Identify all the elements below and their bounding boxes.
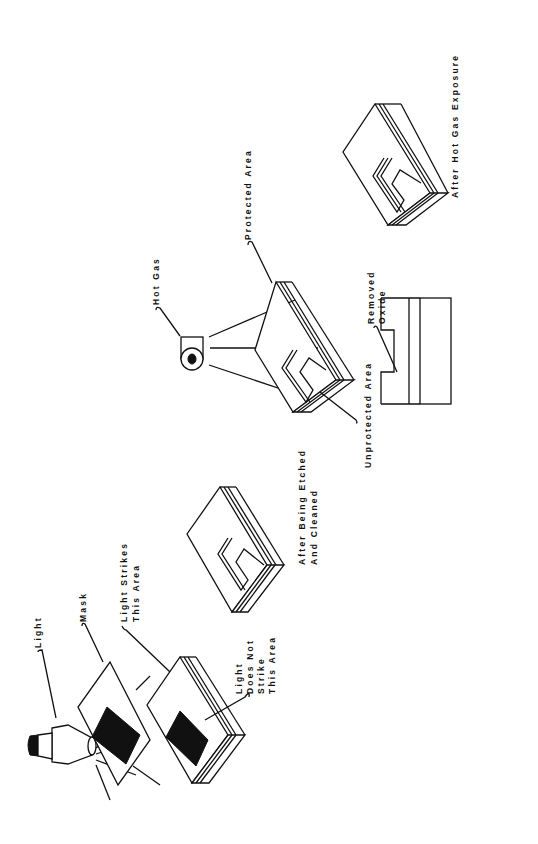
label-etched-2: And Cleaned <box>309 489 319 565</box>
wafer-exposed <box>147 657 245 783</box>
hot-gas-pointer <box>156 307 180 336</box>
label-removed-oxide-1: Removed <box>366 270 376 324</box>
label-light-not-4: This Area <box>267 636 277 694</box>
light-pointer <box>38 650 56 718</box>
light-bulb-icon <box>28 725 96 764</box>
hot-gas-nozzle-icon <box>181 337 203 370</box>
label-light-not-1: Light <box>234 662 244 694</box>
label-protected-area: Protected Area <box>243 149 253 240</box>
label-light-strikes-2: This Area <box>131 564 141 622</box>
protected-area-pointer <box>248 241 272 283</box>
unprotected-area-pointer <box>320 392 357 423</box>
photolithography-diagram: Light Mask Light Strikes This Area Light… <box>0 0 538 844</box>
mask-pointer <box>82 623 103 662</box>
light-strikes-pointer <box>122 626 170 672</box>
wafer-etched <box>187 487 284 612</box>
label-etched-1: After Being Etched <box>297 449 307 565</box>
label-light-not-2: Does Not <box>245 639 255 694</box>
label-mask: Mask <box>78 592 88 622</box>
label-light-not-3: Strike <box>256 657 266 694</box>
light-not-pointer <box>205 694 249 721</box>
mask-plate <box>78 662 150 785</box>
label-unprotected-area: Unprotected Area <box>363 362 373 468</box>
label-light: Light <box>33 616 43 648</box>
label-after-hot-gas: After Hot Gas Exposure <box>450 54 460 198</box>
wafer-hot-gas <box>255 282 354 412</box>
cross-section-oxide <box>381 298 451 404</box>
label-hot-gas: Hot Gas <box>151 257 161 305</box>
label-light-strikes-1: Light Strikes <box>119 542 129 622</box>
label-removed-oxide-2: Oxide <box>377 289 387 324</box>
wafer-result <box>343 104 448 225</box>
